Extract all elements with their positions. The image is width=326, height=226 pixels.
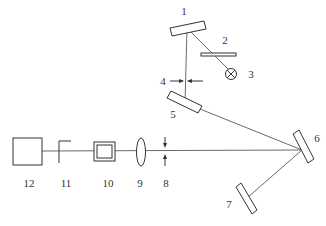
aperture-4-arrows-icon: [170, 79, 203, 83]
lens-9: [137, 138, 146, 166]
label-6: 6: [314, 132, 320, 144]
label-8: 8: [163, 177, 169, 189]
aperture-8-arrows-icon: [163, 137, 167, 166]
label-4: 4: [160, 75, 166, 87]
stop-11: [59, 141, 71, 163]
label-5: 5: [170, 108, 176, 120]
label-11: 11: [61, 177, 72, 189]
label-12: 12: [24, 177, 35, 189]
mirror-6: [293, 130, 314, 163]
label-2: 2: [222, 34, 228, 46]
mirror-7: [236, 183, 257, 214]
beam-mirror5-to-mirror6: [190, 105, 302, 150]
optical-diagram: 1 2 3 4 5 6 7 8 9 10: [0, 0, 326, 226]
beam-horizontal: [42, 150, 302, 151]
label-1: 1: [181, 5, 187, 17]
detector-box-12: [13, 138, 42, 165]
lamp-3-icon: [226, 69, 237, 80]
label-3: 3: [248, 68, 254, 80]
label-10: 10: [103, 177, 115, 189]
label-7: 7: [226, 198, 232, 210]
beam-mirror6-to-mirror7: [247, 150, 302, 198]
mirror-1: [170, 21, 206, 36]
sample-cell-10: [94, 142, 115, 161]
beam-mirror1-to-mirror5: [185, 28, 187, 104]
label-9: 9: [137, 177, 143, 189]
plate-2: [201, 53, 236, 56]
